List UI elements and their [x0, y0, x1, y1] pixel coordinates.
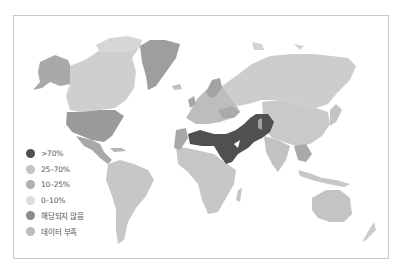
legend-item-not-applicable: 해당되지 않음	[26, 208, 84, 224]
legend-dot-icon	[26, 211, 35, 220]
legend-item-gt70: >70%	[26, 146, 84, 162]
region-arctic-russia-islands	[252, 42, 304, 50]
region-indonesia	[298, 170, 350, 187]
region-morocco	[174, 128, 188, 150]
legend-dot-icon	[26, 227, 35, 236]
region-south-america	[106, 160, 154, 244]
legend-label: 데이터 부족	[41, 226, 77, 237]
legend-dot-icon	[26, 196, 35, 205]
legend-item-0-10: 0–10%	[26, 193, 84, 209]
region-alaska	[33, 55, 72, 90]
legend-label: 0–10%	[41, 196, 65, 205]
legend-dot-icon	[26, 149, 35, 158]
region-australia	[312, 190, 352, 222]
region-southeast-asia	[294, 144, 312, 162]
legend-item-10-25: 10–25%	[26, 177, 84, 193]
region-greenland	[140, 40, 180, 90]
legend-label: 해당되지 않음	[41, 210, 84, 221]
region-madagascar	[236, 188, 242, 202]
legend-label: >70%	[41, 149, 63, 158]
legend-dot-icon	[26, 165, 35, 174]
region-new-zealand	[362, 222, 376, 242]
legend-dot-icon	[26, 180, 35, 189]
legend-item-25-70: 25–70%	[26, 162, 84, 178]
legend-label: 25–70%	[41, 165, 70, 174]
region-caribbean	[110, 148, 126, 152]
legend-item-no-data: 데이터 부족	[26, 224, 84, 240]
region-iceland	[172, 84, 182, 90]
region-arctic-islands	[96, 36, 142, 52]
legend-label: 10–25%	[41, 180, 70, 189]
region-russia	[222, 54, 356, 108]
region-usa	[66, 110, 124, 142]
region-caspian	[258, 118, 262, 130]
map-legend: >70% 25–70% 10–25% 0–10% 해당되지 않음 데이터 부족	[26, 146, 84, 239]
region-japan	[330, 104, 342, 126]
